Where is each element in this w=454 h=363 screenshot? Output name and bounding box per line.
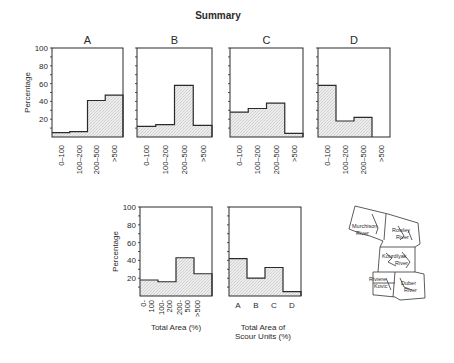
x-tick-label: A: [235, 301, 241, 310]
y-axis-label: Percentage: [111, 230, 120, 271]
chart-panel-D: D0–100100–200200–500>500: [316, 34, 390, 174]
map-label-murchison: Murchison: [352, 223, 377, 229]
y-tick-label: 100: [123, 203, 137, 212]
y-tick-label: 80: [39, 62, 48, 71]
y-tick-label: 100: [35, 44, 49, 53]
chart-panel-A: 20406080100PercentageA0–100100–200200–50…: [23, 34, 123, 174]
x-axis-label: Total Area of: [241, 323, 286, 332]
x-tick-label: >500: [193, 300, 202, 317]
chart-panel-total-area: 20406080100Percentage0-100100-200200-500…: [111, 203, 212, 332]
svg-text:Kovic: Kovic: [374, 283, 388, 289]
x-tick-label: 200–500: [92, 145, 101, 174]
y-tick-label: 40: [39, 97, 48, 106]
x-tick-label: >500: [199, 145, 208, 162]
chart-panel-B: B0–100100–200200–500>500: [135, 34, 212, 174]
x-tick-label: 200: [165, 300, 174, 313]
svg-text:Scour Units (%): Scour Units (%): [235, 332, 291, 341]
panel-title: A: [84, 34, 92, 46]
histogram-fill: [318, 85, 390, 137]
y-tick-label: 20: [127, 274, 136, 283]
svg-text:River: River: [404, 287, 417, 293]
panel-title: C: [263, 34, 271, 46]
summary-figure: Summary 20406080100PercentageA0–100100–2…: [0, 0, 454, 363]
y-tick-label: 40: [127, 256, 136, 265]
x-tick-label: 500: [183, 300, 192, 313]
y-tick-label: 20: [39, 115, 48, 124]
x-tick-label: 100–200: [253, 145, 262, 174]
x-axis-label: Total Area (%): [151, 323, 202, 332]
chart-panel-C: C0–100100–200200–500>500: [228, 34, 303, 174]
map-label-kovic: Riviere: [369, 276, 386, 282]
x-tick-label: 100–200: [161, 145, 170, 174]
x-tick-label: 0–100: [323, 145, 332, 166]
x-tick-label: 100: [147, 300, 156, 313]
x-tick-label: >500: [110, 145, 119, 162]
x-tick-label: >500: [290, 145, 299, 162]
x-tick-label: 200–500: [359, 145, 368, 174]
y-axis-label: Percentage: [23, 71, 32, 112]
x-tick-label: >500: [377, 145, 386, 162]
x-tick-label: 0–100: [57, 145, 66, 166]
svg-text:River: River: [395, 260, 408, 266]
y-tick-label: 80: [127, 221, 136, 230]
x-tick-label: C: [271, 301, 277, 310]
x-tick-label: 100–200: [341, 145, 350, 174]
panel-title: D: [350, 34, 358, 46]
panel-title: B: [171, 34, 178, 46]
x-tick-label: 200–500: [180, 145, 189, 174]
map-label-kourdlyak: Kourdlyak: [382, 253, 407, 259]
x-tick-label: B: [253, 301, 258, 310]
x-tick-label: 100–200: [75, 145, 84, 174]
y-tick-label: 60: [127, 239, 136, 248]
x-tick-label: 0–100: [142, 145, 151, 166]
chart-panel-scour-units: ABCDTotal Area ofScour Units (%): [227, 207, 301, 341]
svg-text:River: River: [356, 230, 369, 236]
river-map: Murchison River Rowley River Kourdlyak R…: [349, 206, 425, 300]
figure-title: Summary: [195, 10, 241, 21]
map-label-rowley: Rowley: [392, 227, 410, 233]
x-tick-label: D: [289, 301, 295, 310]
svg-text:River: River: [396, 234, 409, 240]
x-tick-label: 200–500: [272, 145, 281, 174]
y-tick-label: 60: [39, 80, 48, 89]
map-label-duber: Duber: [401, 280, 416, 286]
x-tick-label: 0–100: [235, 145, 244, 166]
